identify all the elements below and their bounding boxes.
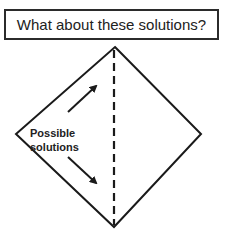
label-line-1: Possible bbox=[30, 126, 100, 140]
arrow-up-right-icon bbox=[68, 86, 96, 112]
possible-solutions-label: Possible solutions bbox=[30, 126, 100, 154]
diamond-diagram bbox=[0, 0, 226, 234]
label-line-2: solutions bbox=[30, 140, 100, 154]
arrow-down-right-icon bbox=[68, 157, 96, 183]
